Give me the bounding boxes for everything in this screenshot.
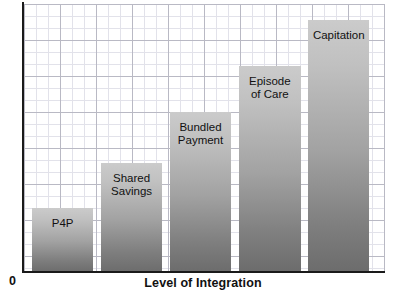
x-axis-line: [22, 271, 385, 273]
bar-shared-savings: Shared Savings: [101, 163, 162, 272]
bar-label-episode-of-care: Episode of Care: [239, 75, 300, 101]
bar-episode-of-care: Episode of Care: [239, 66, 300, 272]
origin-label: 0: [9, 274, 16, 288]
x-axis-title: Level of Integration: [23, 276, 383, 290]
bar-capitation: Capitation: [308, 20, 369, 272]
bar-label-p4p: P4P: [32, 217, 93, 230]
bar-bundled-payment: Bundled Payment: [170, 112, 231, 272]
bar-chart: Risk Tolerance P4P Shared Savings Bundle…: [0, 0, 395, 299]
y-axis-line: [22, 2, 24, 273]
bar-label-bundled-payment: Bundled Payment: [170, 121, 231, 147]
bar-label-shared-savings: Shared Savings: [101, 172, 162, 198]
plot-area: P4P Shared Savings Bundled Payment Episo…: [24, 4, 385, 272]
bar-label-capitation: Capitation: [308, 29, 369, 42]
bar-p4p: P4P: [32, 208, 93, 272]
